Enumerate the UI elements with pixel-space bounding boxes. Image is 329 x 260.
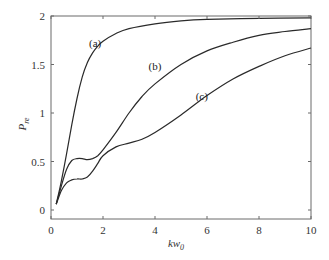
y-tick-label: 1 bbox=[40, 107, 46, 119]
curve-label-a: (a) bbox=[89, 37, 102, 50]
x-axis-title: kw0 bbox=[168, 237, 184, 252]
y-tick-label: 0 bbox=[40, 204, 46, 216]
curve-labels: (a)(b)(c) bbox=[89, 37, 208, 103]
curve-label-c: (c) bbox=[196, 90, 209, 103]
y-axis-title: Pre bbox=[16, 117, 31, 132]
x-tick-label: 6 bbox=[204, 224, 210, 236]
y-tick-label: 1.5 bbox=[31, 59, 45, 71]
y-tick-label: 2 bbox=[40, 10, 46, 22]
y-axis-ticks: 00.511.52 bbox=[31, 10, 311, 216]
x-tick-label: 2 bbox=[100, 224, 106, 236]
y-tick-label: 0.5 bbox=[31, 156, 45, 168]
curve-c bbox=[56, 48, 311, 204]
x-tick-label: 0 bbox=[48, 224, 54, 236]
line-chart: 0246810 00.511.52 (a)(b)(c) kw0 Pre bbox=[0, 0, 329, 260]
curve-b bbox=[56, 29, 311, 205]
x-tick-label: 10 bbox=[306, 224, 318, 236]
x-tick-label: 4 bbox=[152, 224, 158, 236]
x-tick-label: 8 bbox=[256, 224, 262, 236]
curve-label-b: (b) bbox=[149, 60, 162, 73]
